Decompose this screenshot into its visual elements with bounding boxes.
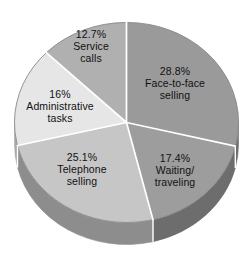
pie-chart: 12.7% Service calls 28.8% Face-to-face s… bbox=[0, 0, 248, 258]
pie-chart-graphic bbox=[0, 0, 248, 258]
